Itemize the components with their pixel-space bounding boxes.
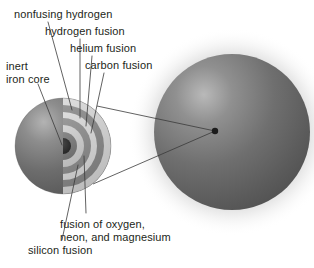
label-inert-iron-core: inert iron core (6, 60, 50, 85)
label-nonfusing-hydrogen: nonfusing hydrogen (14, 8, 112, 21)
full-star-sphere-group (128, 28, 314, 236)
core-dot (212, 128, 218, 134)
label-silicon-fusion: silicon fusion (28, 244, 92, 257)
label-carbon-fusion: carbon fusion (85, 59, 152, 72)
cutaway-star-group (15, 98, 111, 194)
label-helium-fusion: helium fusion (70, 42, 136, 55)
label-oxygen-neon-magnesium-fusion: fusion of oxygen, neon, and magnesium (60, 218, 171, 243)
full-star-sphere (154, 54, 310, 210)
label-hydrogen-fusion: hydrogen fusion (45, 25, 125, 38)
